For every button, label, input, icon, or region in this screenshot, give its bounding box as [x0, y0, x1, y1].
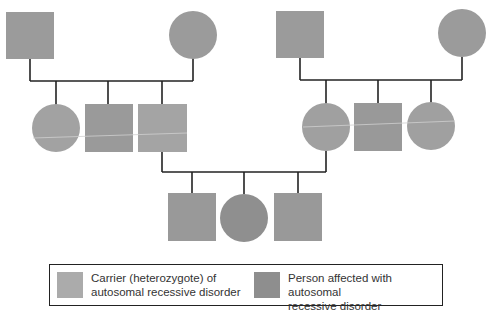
carrier-line2: autosomal recessive disorder [91, 285, 241, 299]
individual-II-5-male [354, 103, 402, 151]
individual-I-1-male [6, 12, 54, 59]
affected-swatch [254, 272, 280, 298]
affected-line2: recessive disorder [288, 299, 442, 312]
carrier-line1: Carrier (heterozygote) of [91, 271, 241, 285]
individual-II-1-female [32, 104, 80, 152]
individual-III-3-male [274, 193, 322, 241]
affected-line1: Person affected with autosomal [288, 271, 442, 299]
carrier-legend-text: Carrier (heterozygote) of autosomal rece… [91, 271, 241, 299]
affected-legend-text: Person affected with autosomal recessive… [288, 271, 442, 312]
individual-II-3-male [138, 104, 187, 152]
legend-box: Carrier (heterozygote) of autosomal rece… [49, 264, 443, 306]
individual-I-3-male [276, 11, 324, 58]
individual-III-2-female [220, 194, 268, 242]
carrier-swatch [57, 272, 83, 298]
individual-III-1-male [168, 193, 216, 241]
individual-II-6-female [407, 102, 455, 150]
individual-I-2-female [169, 11, 217, 59]
individual-I-4-female [438, 9, 486, 57]
individual-II-2-male [85, 104, 133, 152]
